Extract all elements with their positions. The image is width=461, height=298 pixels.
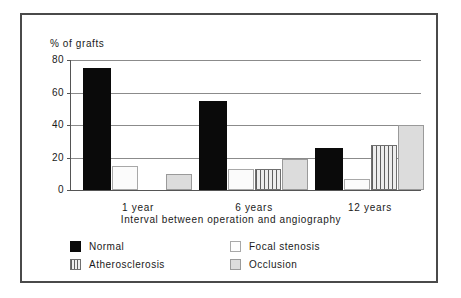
legend-row-1: Normal Focal stenosis [70, 237, 410, 255]
y-tick-label-20: 20 [52, 153, 64, 163]
x-axis-title: Interval between operation and angiograp… [22, 214, 440, 225]
legend-row-2: Atherosclerosis Occlusion [70, 255, 410, 273]
legend-label-atherosclerosis: Atherosclerosis [89, 259, 165, 270]
legend-label-focal-stenosis: Focal stenosis [249, 241, 320, 252]
legend: Normal Focal stenosis Atherosclerosis Oc… [70, 237, 410, 273]
bar-focal-stenosis-12-years[interactable] [344, 179, 370, 190]
gridline-0: 0 [71, 190, 421, 191]
bar-atherosclerosis-12-years[interactable] [371, 145, 397, 191]
bar-group-6-years: 6 years [199, 60, 309, 190]
bar-normal-12-years[interactable] [315, 148, 343, 190]
bar-normal-1-year[interactable] [83, 68, 111, 190]
bar-chart: % of grafts 80 60 40 20 0 [22, 15, 440, 285]
tick-80 [67, 60, 71, 61]
bar-group-12-years: 12 years [315, 60, 425, 190]
tick-40 [67, 125, 71, 126]
legend-label-normal: Normal [89, 241, 124, 252]
y-tick-label-80: 80 [52, 55, 64, 65]
x-tick-label-12-years: 12 years [348, 202, 392, 213]
tick-20 [67, 158, 71, 159]
bar-atherosclerosis-6-years[interactable] [255, 169, 281, 190]
plot-area: 80 60 40 20 0 1 yea [70, 60, 421, 191]
bar-group-1-year: 1 year [83, 60, 193, 190]
bar-normal-6-years[interactable] [199, 101, 227, 190]
y-axis-title: % of grafts [50, 38, 104, 49]
legend-item-atherosclerosis[interactable]: Atherosclerosis [70, 259, 230, 270]
figure-frame: % of grafts 80 60 40 20 0 [20, 13, 438, 283]
bar-focal-stenosis-6-years[interactable] [228, 169, 254, 190]
x-tick-label-1-year: 1 year [122, 202, 154, 213]
bar-occlusion-6-years[interactable] [282, 159, 308, 190]
y-tick-label-0: 0 [58, 185, 64, 195]
legend-label-occlusion: Occlusion [249, 259, 297, 270]
bar-focal-stenosis-1-year[interactable] [112, 166, 138, 190]
legend-swatch-normal-icon [70, 241, 81, 252]
legend-item-occlusion[interactable]: Occlusion [230, 259, 297, 270]
tick-60 [67, 93, 71, 94]
y-tick-label-60: 60 [52, 88, 64, 98]
y-tick-label-40: 40 [52, 120, 64, 130]
legend-item-focal-stenosis[interactable]: Focal stenosis [230, 241, 320, 252]
bar-occlusion-12-years[interactable] [398, 125, 424, 190]
legend-swatch-occlusion-icon [230, 259, 241, 270]
tick-0 [67, 190, 71, 191]
legend-swatch-focal-stenosis-icon [230, 241, 241, 252]
legend-swatch-atherosclerosis-icon [70, 259, 81, 270]
x-tick-label-6-years: 6 years [235, 202, 273, 213]
legend-item-normal[interactable]: Normal [70, 241, 230, 252]
bar-occlusion-1-year[interactable] [166, 174, 192, 190]
